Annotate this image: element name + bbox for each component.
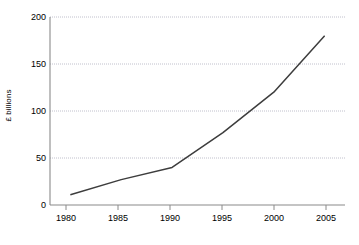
x-tick-label-2005: 2005 (306, 214, 346, 223)
x-axis-tick-labels: 1980 1985 1990 1995 2000 2005 (0, 0, 359, 245)
x-tick-label-1995: 1995 (202, 214, 242, 223)
line-chart: £ billions 200 150 100 50 0 (0, 0, 359, 245)
x-tick-label-1980: 1980 (46, 214, 86, 223)
x-tick-label-1985: 1985 (98, 214, 138, 223)
x-tick-label-1990: 1990 (150, 214, 190, 223)
x-tick-label-2000: 2000 (254, 214, 294, 223)
